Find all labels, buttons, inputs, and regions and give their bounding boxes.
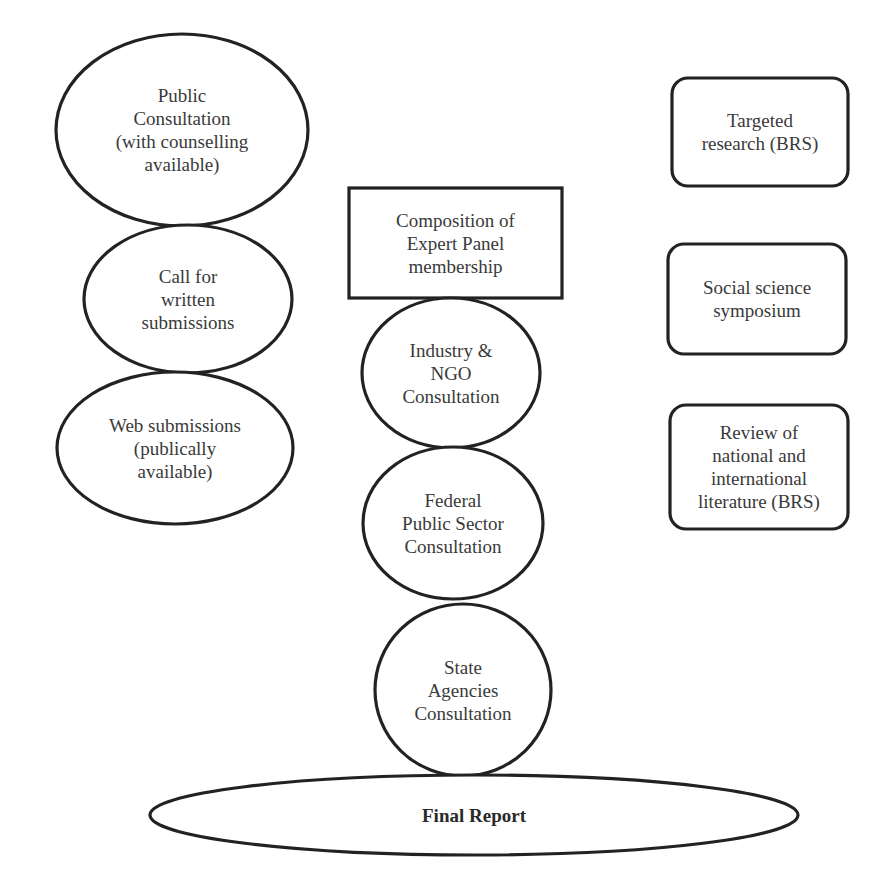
diagram-canvas xyxy=(0,0,887,888)
final-report-shape xyxy=(150,775,798,855)
industry-ngo-consultation-shape xyxy=(362,298,540,448)
call-for-written-submissions-shape xyxy=(84,225,292,373)
social-science-symposium-shape xyxy=(668,244,846,354)
shapes-layer xyxy=(56,34,848,855)
web-submissions-shape xyxy=(57,372,293,524)
expert-panel-composition-shape xyxy=(349,188,562,298)
federal-public-sector-consultation-shape xyxy=(363,447,543,599)
literature-review-shape xyxy=(670,405,848,529)
state-agencies-consultation-shape xyxy=(375,604,551,776)
public-consultation-shape xyxy=(56,34,308,226)
targeted-research-shape xyxy=(672,78,848,186)
